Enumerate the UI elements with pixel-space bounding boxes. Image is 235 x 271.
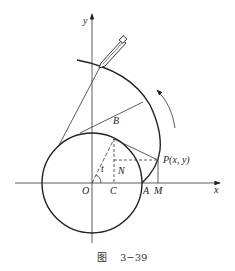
pencil-icon bbox=[99, 36, 127, 68]
origin-label: O bbox=[82, 185, 89, 196]
point-m-label: M bbox=[153, 185, 163, 196]
point-c-label: C bbox=[110, 185, 117, 196]
angle-arc bbox=[96, 175, 101, 183]
tangent-line-b bbox=[80, 102, 143, 133]
angle-t-label: t bbox=[101, 163, 104, 174]
y-axis-label: y bbox=[82, 15, 88, 26]
x-axis-label: x bbox=[213, 184, 219, 195]
point-a-label: A bbox=[142, 185, 150, 196]
tangent-line-p bbox=[114, 139, 158, 160]
involute-diagram: y x O C N A M B P(x, y) t 图 3−39 bbox=[0, 0, 235, 271]
point-b-label: B bbox=[113, 115, 119, 126]
point-n-label: N bbox=[117, 165, 126, 176]
caption-number: 3−39 bbox=[120, 252, 147, 263]
radius-dashed bbox=[92, 139, 114, 183]
caption-prefix: 图 bbox=[97, 252, 107, 263]
rotation-arrow-icon bbox=[157, 90, 175, 128]
point-p-label: P(x, y) bbox=[162, 154, 190, 166]
